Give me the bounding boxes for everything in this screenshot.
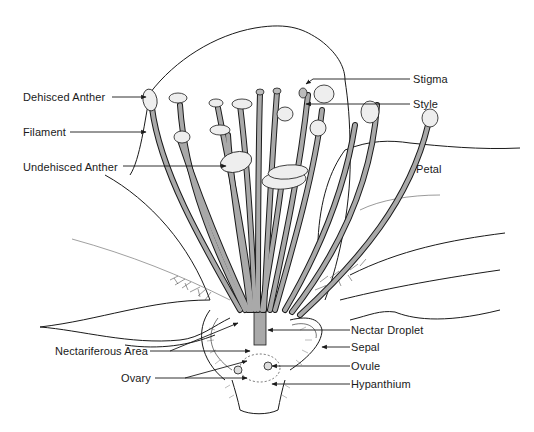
label-sepal: Sepal — [351, 341, 380, 354]
label-ovule: Ovule — [351, 360, 380, 373]
label-nectar-droplet: Nectar Droplet — [351, 324, 423, 337]
pistil — [234, 305, 272, 374]
label-ovary: Ovary — [121, 372, 151, 385]
stigmas — [256, 88, 307, 98]
label-filament: Filament — [23, 126, 66, 139]
label-hypanthium: Hypanthium — [351, 378, 411, 391]
label-style: Style — [413, 98, 438, 111]
label-nectariferous-area: Nectariferous Area — [55, 345, 148, 358]
anthers — [141, 85, 438, 191]
label-petal: Petal — [416, 163, 442, 176]
label-undehisced-anther: Undehisced Anther — [23, 161, 118, 174]
filaments — [152, 92, 428, 315]
label-dehisced-anther: Dehisced Anther — [23, 91, 105, 104]
label-stigma: Stigma — [413, 73, 448, 86]
